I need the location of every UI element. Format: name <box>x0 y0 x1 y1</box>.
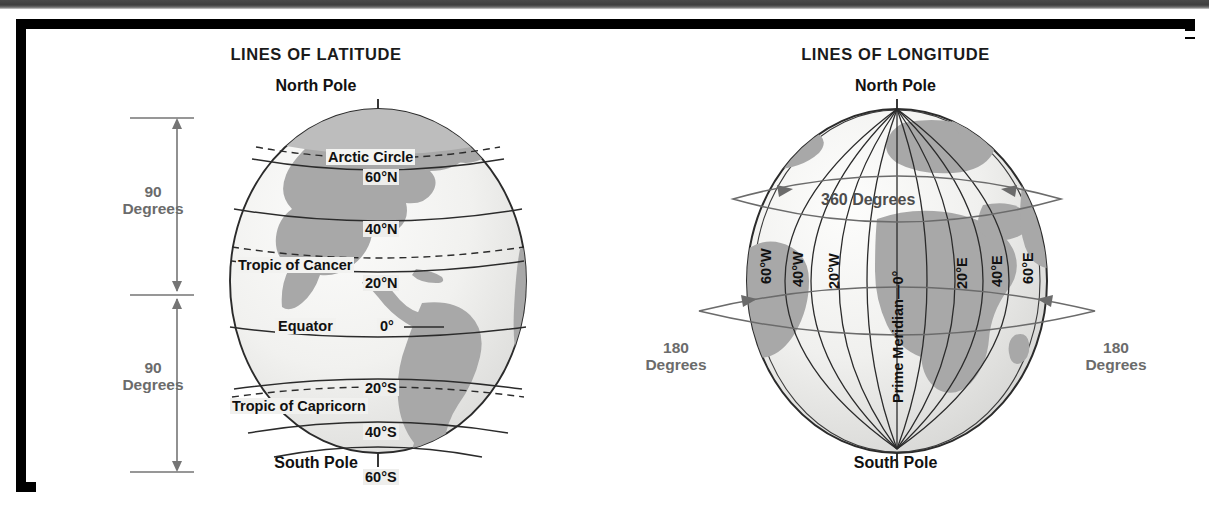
label-equator: Equator <box>275 318 336 334</box>
label-40s: 40°S <box>363 424 399 440</box>
bracket-label-north: 90 Degrees <box>122 183 184 217</box>
illustration-frame: LINES OF LATITUDE North Pole South Pole <box>16 19 1195 492</box>
illustration-canvas: LINES OF LATITUDE North Pole South Pole <box>36 39 1195 492</box>
label-40w: 40°W <box>790 251 806 287</box>
label-40e: 40°E <box>989 255 1005 287</box>
label-20s: 20°S <box>363 380 399 396</box>
left-180-degrees-label: 180 Degrees <box>636 339 716 373</box>
label-20n: 20°N <box>363 275 399 291</box>
label-20e: 20°E <box>954 257 970 289</box>
label-0-degrees: 0° <box>377 318 397 334</box>
label-20w: 20°W <box>826 253 842 289</box>
latitude-panel: LINES OF LATITUDE North Pole South Pole <box>36 39 596 492</box>
frame-dash-left <box>26 29 36 502</box>
longitude-north-pole-label: North Pole <box>596 77 1195 95</box>
longitude-panel: LINES OF LONGITUDE North Pole South Pole… <box>596 39 1195 492</box>
label-arctic-circle: Arctic Circle <box>326 149 415 165</box>
latitude-north-pole-label: North Pole <box>36 77 596 95</box>
longitude-globe: 360 Degrees 60°W 40°W 20°W Prime Meridia… <box>727 99 1067 459</box>
top-bar <box>0 0 1209 9</box>
right-180-degrees-label: 180 Degrees <box>1074 339 1158 373</box>
label-360-degrees: 360 Degrees <box>821 191 915 209</box>
degrees-bracket: 90 Degrees 90 Degrees <box>122 115 218 475</box>
label-tropic-of-cancer: Tropic of Cancer <box>236 257 354 273</box>
latitude-globe: Arctic Circle 60°N 40°N Tropic of Cancer… <box>208 99 548 459</box>
label-prime-meridian: Prime Meridian—0° <box>890 271 906 403</box>
label-60e: 60°E <box>1020 252 1036 284</box>
bracket-label-south: 90 Degrees <box>122 359 184 393</box>
frame-dash-top <box>26 29 1205 39</box>
label-40n: 40°N <box>363 221 399 237</box>
bracket-arrows <box>122 115 218 475</box>
latitude-title: LINES OF LATITUDE <box>36 45 596 64</box>
label-60s: 60°S <box>363 469 399 485</box>
longitude-title: LINES OF LONGITUDE <box>596 45 1195 64</box>
label-tropic-of-capricorn: Tropic of Capricorn <box>230 398 368 414</box>
label-60n: 60°N <box>363 169 399 185</box>
label-60w: 60°W <box>758 248 774 284</box>
